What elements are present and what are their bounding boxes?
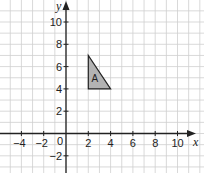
y-tick-label: 8 (56, 38, 62, 50)
y-tick-label: 6 (56, 61, 62, 73)
x-tick-label: 6 (130, 137, 136, 149)
shape-label: A (91, 73, 98, 84)
y-tick-label: 4 (56, 83, 62, 95)
x-tick-label: −4 (13, 137, 26, 149)
x-tick-label: 8 (152, 137, 158, 149)
origin-label: 0 (57, 135, 63, 147)
x-tick-label: 2 (85, 137, 91, 149)
y-axis-label: y (55, 0, 62, 13)
y-tick-label: 2 (56, 105, 62, 117)
x-tick-label: 10 (171, 137, 183, 149)
x-tick-label: −2 (35, 137, 48, 149)
y-axis-arrow-icon (63, 1, 70, 10)
x-tick-label: 4 (108, 137, 114, 149)
x-axis-label: x (192, 135, 199, 149)
y-tick-label: −2 (49, 150, 62, 162)
coordinate-grid: A x y 0 −4−2246810108642−2 (0, 0, 204, 173)
y-tick-label: 10 (50, 16, 62, 28)
